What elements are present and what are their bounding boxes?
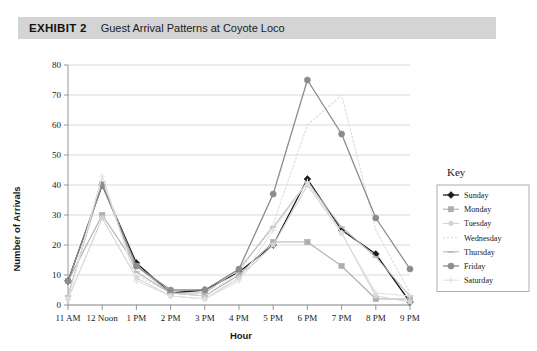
x-tick-label: 11 AM	[56, 313, 81, 323]
y-tick-label: 80	[52, 60, 62, 70]
data-point-marker	[236, 266, 242, 272]
x-tick-label: 12 Noon	[87, 313, 119, 323]
x-tick-label: 3 PM	[195, 313, 215, 323]
data-point-marker	[271, 243, 276, 248]
data-point-marker	[408, 300, 413, 305]
legend: KeySundayMondayTuesdayWednesdayThursdayF…	[437, 166, 529, 291]
data-point-marker	[270, 191, 276, 197]
data-point-marker	[448, 207, 453, 212]
legend-item-label: Saturday	[464, 276, 494, 285]
data-point-marker	[202, 287, 208, 293]
exhibit-title: Guest Arrival Patterns at Coyote Loco	[101, 22, 285, 34]
y-tick-label: 20	[52, 240, 62, 250]
x-axis-title: Hour	[230, 330, 252, 341]
exhibit-number-label: EXHIBIT 2	[29, 22, 87, 34]
exhibit-header-band: EXHIBIT 2 Guest Arrival Patterns at Coyo…	[18, 17, 496, 39]
series-lines	[65, 77, 414, 306]
data-point-marker	[65, 278, 71, 284]
data-point-marker	[448, 263, 454, 269]
series-monday	[65, 212, 412, 301]
y-tick-label: 70	[52, 90, 62, 100]
y-tick-label: 10	[52, 270, 62, 280]
data-point-marker	[305, 239, 310, 244]
x-tick-label: 1 PM	[127, 313, 147, 323]
legend-item-label: Wednesday	[464, 234, 502, 243]
exhibit-figure: EXHIBIT 2 Guest Arrival Patterns at Coyo…	[0, 0, 537, 351]
x-tick-label: 7 PM	[332, 313, 352, 323]
x-tick-label: 2 PM	[161, 313, 181, 323]
x-axis: 11 AM12 Noon1 PM2 PM3 PM4 PM5 PM6 PM7 PM…	[56, 305, 420, 323]
y-tick-label: 30	[52, 210, 62, 220]
x-tick-label: 4 PM	[229, 313, 249, 323]
legend-item-label: Thursday	[464, 248, 496, 257]
data-point-marker	[99, 173, 105, 179]
legend-item-label: Friday	[464, 262, 486, 271]
data-point-marker	[100, 216, 105, 221]
chart-container: 01020304050607080 11 AM12 Noon1 PM2 PM3 …	[0, 44, 537, 349]
legend-item-label: Monday	[464, 205, 492, 214]
x-tick-label: 8 PM	[366, 313, 386, 323]
y-tick-label: 60	[52, 120, 62, 130]
legend-item-label: Sunday	[464, 191, 489, 200]
legend-title: Key	[447, 166, 466, 178]
data-point-marker	[168, 287, 174, 293]
data-point-marker	[133, 263, 139, 269]
x-tick-label: 6 PM	[298, 313, 318, 323]
y-tick-label: 0	[57, 300, 62, 310]
data-point-marker	[304, 77, 310, 83]
data-point-marker	[373, 215, 379, 221]
data-point-marker	[407, 266, 413, 272]
y-tick-label: 50	[52, 150, 62, 160]
y-axis-title: Number of Arrivals	[11, 186, 22, 271]
data-point-marker	[339, 131, 345, 137]
data-point-marker	[449, 221, 454, 226]
legend-item-label: Tuesday	[464, 219, 492, 228]
series-sunday	[65, 176, 414, 306]
y-axis: 01020304050607080	[52, 60, 68, 310]
data-point-marker	[339, 263, 344, 268]
line-chart: 01020304050607080 11 AM12 Noon1 PM2 PM3 …	[0, 44, 537, 349]
series-line	[68, 185, 410, 302]
x-tick-label: 5 PM	[263, 313, 283, 323]
x-tick-label: 9 PM	[400, 313, 420, 323]
y-tick-label: 40	[52, 180, 62, 190]
